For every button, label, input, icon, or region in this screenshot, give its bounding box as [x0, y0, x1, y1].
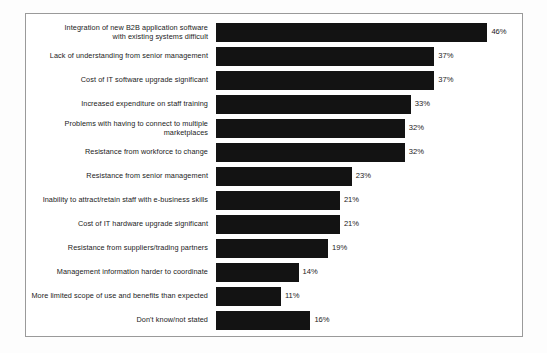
bar-track: 14%	[216, 260, 522, 284]
bar-value-label: 46%	[491, 28, 506, 36]
bar-track: 21%	[216, 188, 522, 212]
bar-row: Resistance from workforce to change32%	[26, 140, 522, 164]
bar	[216, 239, 328, 258]
bar	[216, 23, 487, 42]
bar	[216, 287, 281, 306]
bar	[216, 167, 352, 186]
bar	[216, 143, 405, 162]
bar-row: Management information harder to coordin…	[26, 260, 522, 284]
bar-track: 23%	[216, 164, 522, 188]
bar-track: 19%	[216, 236, 522, 260]
bar-row: Integration of new B2B application softw…	[26, 20, 522, 44]
bar-value-label: 14%	[303, 268, 318, 276]
bar-category-label: Lack of understanding from senior manage…	[26, 51, 216, 60]
bar-value-label: 37%	[438, 76, 453, 84]
bar-track: 11%	[216, 284, 522, 308]
bar	[216, 95, 411, 114]
bar-category-label: Resistance from senior management	[26, 171, 216, 180]
bar-category-label: Problems with having to connect to multi…	[26, 119, 216, 137]
bar-value-label: 32%	[409, 148, 424, 156]
bar-row: Cost of IT software upgrade significant3…	[26, 68, 522, 92]
bar-category-label: More limited scope of use and benefits t…	[26, 291, 216, 300]
bar-category-label: Management information harder to coordin…	[26, 267, 216, 276]
bar	[216, 119, 405, 138]
bar-value-label: 16%	[314, 316, 329, 324]
bar-value-label: 37%	[438, 52, 453, 60]
bar-chart-plot-area: Integration of new B2B application softw…	[26, 14, 522, 336]
bar-row: Cost of IT hardware upgrade significant2…	[26, 212, 522, 236]
bar-track: 33%	[216, 92, 522, 116]
bar	[216, 263, 299, 282]
bar-category-label: Resistance from suppliers/trading partne…	[26, 243, 216, 252]
bar-track: 37%	[216, 68, 522, 92]
bar-row: Don't know/not stated16%	[26, 308, 522, 332]
bar-value-label: 11%	[285, 292, 300, 300]
bar-category-label: Cost of IT software upgrade significant	[26, 75, 216, 84]
bar-category-label: Cost of IT hardware upgrade significant	[26, 219, 216, 228]
bar-row: Resistance from suppliers/trading partne…	[26, 236, 522, 260]
chart-frame: Integration of new B2B application softw…	[25, 13, 523, 337]
bar-track: 16%	[216, 308, 522, 332]
bar-track: 46%	[216, 20, 522, 44]
bar	[216, 47, 434, 66]
bar-value-label: 23%	[356, 172, 371, 180]
bar-track: 37%	[216, 44, 522, 68]
bar	[216, 191, 340, 210]
bar-row: Lack of understanding from senior manage…	[26, 44, 522, 68]
bar-row: Resistance from senior management23%	[26, 164, 522, 188]
bar-value-label: 33%	[415, 100, 430, 108]
bar-row: Inability to attract/retain staff with e…	[26, 188, 522, 212]
bar-track: 32%	[216, 116, 522, 140]
bar-category-label: Integration of new B2B application softw…	[26, 23, 216, 42]
bar-category-label: Increased expenditure on staff training	[26, 99, 216, 108]
bar	[216, 215, 340, 234]
bar-category-label: Don't know/not stated	[26, 315, 216, 324]
bar-row: More limited scope of use and benefits t…	[26, 284, 522, 308]
bar-row: Increased expenditure on staff training3…	[26, 92, 522, 116]
bar-value-label: 21%	[344, 196, 359, 204]
bar-track: 21%	[216, 212, 522, 236]
bar	[216, 71, 434, 90]
bar-category-label: Resistance from workforce to change	[26, 147, 216, 156]
bar	[216, 311, 310, 330]
bar-value-label: 32%	[409, 124, 424, 132]
bar-row: Problems with having to connect to multi…	[26, 116, 522, 140]
bar-value-label: 19%	[332, 244, 347, 252]
bar-category-label: Inability to attract/retain staff with e…	[26, 195, 216, 204]
bar-track: 32%	[216, 140, 522, 164]
bar-value-label: 21%	[344, 220, 359, 228]
